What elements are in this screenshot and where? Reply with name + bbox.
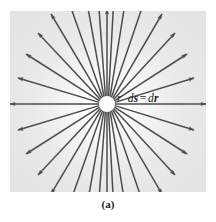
radius-symbol: r — [117, 92, 122, 104]
displacement-vector-symbol: s — [134, 92, 139, 104]
vector-field-label: rds=dr — [117, 93, 159, 105]
panel-background — [10, 11, 206, 192]
vector-field-diagram — [10, 11, 206, 192]
figure-container: rds=dr (a) — [0, 0, 216, 222]
vector-field-panel: rds=dr — [10, 11, 206, 192]
equals-symbol: = — [140, 92, 147, 104]
figure-caption: (a) — [0, 198, 216, 210]
radius-vector-symbol: r — [154, 92, 159, 104]
